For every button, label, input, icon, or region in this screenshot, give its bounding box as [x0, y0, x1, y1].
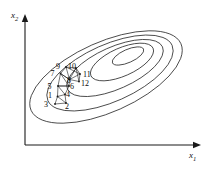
simplex-vertex-11	[79, 73, 81, 75]
contour-lines	[17, 12, 195, 143]
contour-level-5	[17, 12, 195, 143]
simplex-vertex-7	[60, 73, 62, 75]
simplex-edge-5-4	[58, 86, 65, 95]
vertex-label-12: 12	[81, 80, 89, 88]
simplex-vertex-12	[78, 81, 80, 83]
contour-level-4	[36, 19, 183, 126]
vertex-label-9: 9	[56, 63, 60, 71]
x-axis-arrow-icon	[193, 142, 201, 148]
simplex-vertex-3	[54, 103, 56, 105]
vertex-label-5: 5	[48, 83, 52, 91]
vertex-label-7: 7	[51, 70, 55, 78]
vertex-label-4: 4	[66, 91, 70, 99]
y-axis-label: x2	[11, 10, 18, 22]
vertex-label-8: 8	[67, 77, 71, 85]
simplex-edge-5-7	[58, 74, 61, 87]
vertex-label-1: 1	[48, 92, 52, 100]
simplex-edge-1-4	[58, 95, 66, 97]
figure-canvas	[0, 0, 216, 171]
simplex-edge-1-5	[58, 86, 59, 97]
simplex-vertex-9	[65, 66, 67, 68]
simplex-edge-3-1	[55, 97, 58, 105]
simplex-vertex-1	[57, 96, 59, 98]
x-axis-label: x1	[189, 150, 196, 162]
y-axis-label-subscript: 2	[15, 15, 18, 22]
contour-level-1	[110, 43, 146, 69]
contour-simplex-figure: x2 x1 123456789101112	[0, 0, 216, 171]
x-axis-label-subscript: 1	[193, 155, 196, 162]
simplex-vertex-5	[57, 85, 59, 87]
vertex-label-2: 2	[65, 103, 69, 111]
vertex-label-10: 10	[68, 63, 76, 71]
simplex-edge-12-11	[79, 74, 80, 82]
vertex-label-3: 3	[44, 101, 48, 109]
y-axis-arrow-icon	[22, 14, 28, 22]
vertex-label-11: 11	[83, 71, 91, 79]
